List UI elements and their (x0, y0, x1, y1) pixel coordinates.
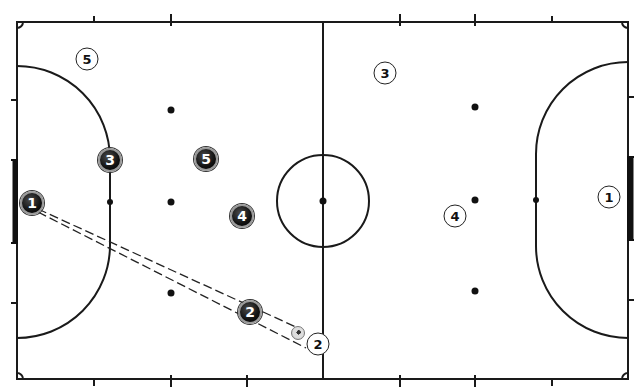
penalty-spot (533, 197, 539, 203)
dark-player-5: 5 (194, 147, 218, 171)
light-player-1: 1 (598, 186, 621, 209)
pass-line (38, 209, 306, 348)
light-player-5: 5 (76, 48, 99, 71)
penalty-spot (107, 199, 113, 205)
center-spot (320, 198, 327, 205)
spot (168, 107, 175, 114)
dark-player-2: 2 (238, 300, 262, 324)
light-player-2: 2 (307, 333, 330, 356)
ball-icon (291, 326, 305, 340)
light-player-3: 3 (374, 62, 397, 85)
dark-player-1: 1 (20, 191, 44, 215)
spot (168, 290, 175, 297)
spot (472, 288, 479, 295)
second-penalty-spot (168, 199, 175, 206)
light-player-4: 4 (444, 205, 467, 228)
dark-player-4: 4 (230, 204, 254, 228)
second-penalty-spot (472, 197, 479, 204)
futsal-diagram: 1 3 5 4 2 5 3 4 1 2 (0, 0, 644, 390)
dark-player-3: 3 (98, 148, 122, 172)
spot (472, 104, 479, 111)
